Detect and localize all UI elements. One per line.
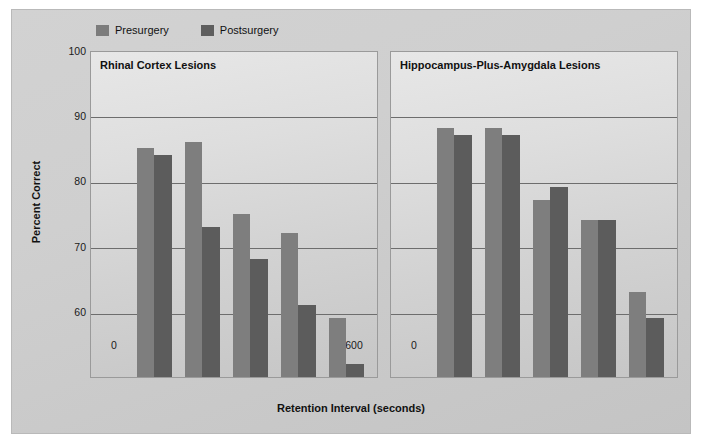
bar-postsurgery-120 (298, 305, 315, 377)
panels-container: Rhinal Cortex Lesions Hippocampus-Plus-A… (90, 51, 678, 378)
bar-presurgery-15 (185, 142, 202, 377)
bar-presurgery-60 (533, 200, 550, 377)
figure-root: Presurgery Postsurgery Percent Correct 1… (0, 0, 702, 443)
bars-group (91, 52, 377, 377)
panel-hippocampus-plus-amygdala-lesions: Hippocampus-Plus-Amygdala Lesions (390, 51, 678, 378)
bar-postsurgery-4 (454, 135, 471, 377)
y-tick-80: 80 (56, 175, 86, 187)
y-tick-70: 70 (56, 241, 86, 253)
bar-postsurgery-60 (250, 259, 267, 377)
y-tick-100: 100 (56, 45, 86, 57)
bar-postsurgery-15 (502, 135, 519, 377)
bar-presurgery-600 (629, 292, 646, 377)
panel-rhinal-cortex-lesions: Rhinal Cortex Lesions (90, 51, 378, 378)
bar-presurgery-15 (485, 128, 502, 377)
bar-presurgery-60 (233, 214, 250, 378)
bar-postsurgery-15 (202, 227, 219, 377)
bar-presurgery-120 (581, 220, 598, 377)
bar-postsurgery-600 (646, 318, 663, 377)
bar-presurgery-120 (281, 233, 298, 377)
bar-postsurgery-60 (550, 187, 567, 377)
panel-title: Rhinal Cortex Lesions (100, 59, 216, 71)
bar-presurgery-4 (137, 148, 154, 377)
legend-item-postsurgery: Postsurgery (201, 24, 279, 36)
legend-swatch-presurgery-icon (96, 25, 109, 36)
bar-presurgery-600 (329, 318, 346, 377)
y-tick-90: 90 (56, 110, 86, 122)
bar-postsurgery-4 (154, 155, 171, 377)
legend-label-presurgery: Presurgery (115, 24, 169, 36)
y-tick-60: 60 (56, 306, 86, 318)
legend-label-postsurgery: Postsurgery (220, 24, 279, 36)
y-axis-label: Percent Correct (30, 142, 42, 262)
legend-swatch-postsurgery-icon (201, 25, 214, 36)
x-axis-label: Retention Interval (seconds) (12, 402, 690, 414)
bars-group (391, 52, 677, 377)
bar-postsurgery-120 (598, 220, 615, 377)
figure-frame: Presurgery Postsurgery Percent Correct 1… (11, 9, 691, 434)
legend-item-presurgery: Presurgery (96, 24, 169, 36)
bar-presurgery-4 (437, 128, 454, 377)
y-axis-ticks: 100 90 80 70 60 (56, 10, 86, 433)
bar-postsurgery-600 (346, 364, 363, 377)
panel-title: Hippocampus-Plus-Amygdala Lesions (400, 59, 600, 71)
legend: Presurgery Postsurgery (96, 24, 279, 36)
